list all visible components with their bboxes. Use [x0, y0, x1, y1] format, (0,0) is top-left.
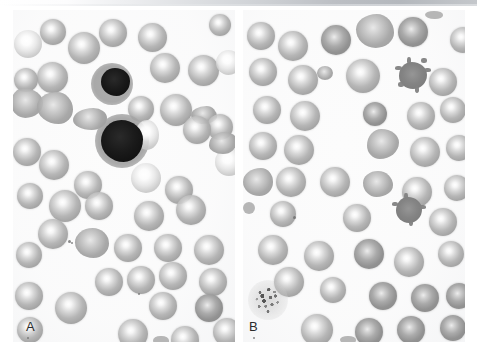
red-blood-cell [253, 96, 281, 124]
red-blood-cell [407, 102, 435, 130]
red-blood-cell [40, 19, 66, 45]
red-blood-cell [438, 241, 464, 267]
panel-a [13, 10, 235, 342]
stain-artifact [27, 337, 29, 339]
red-blood-cell [354, 239, 384, 269]
teardrop-red-cell [363, 171, 393, 197]
red-blood-cell [150, 53, 180, 83]
red-blood-cell [346, 59, 380, 93]
red-blood-cell [249, 58, 277, 86]
echinocyte-spicule [409, 220, 413, 226]
red-blood-cell [321, 25, 351, 55]
echinocyte-spicule [395, 66, 402, 70]
red-blood-cell [369, 282, 397, 310]
stain-artifact [253, 337, 255, 339]
red-blood-cell [398, 17, 428, 47]
red-blood-cell [39, 150, 69, 180]
red-blood-cell [284, 135, 314, 165]
red-blood-cell [213, 318, 235, 342]
stain-artifact [71, 242, 73, 244]
red-blood-cell [38, 219, 68, 249]
red-blood-cell [154, 234, 182, 262]
red-blood-cell [55, 292, 87, 324]
echinocyte-spicule [415, 86, 419, 93]
red-blood-cell [14, 30, 42, 58]
echinocyte-spicule [392, 202, 398, 206]
red-blood-cell [159, 262, 187, 290]
red-blood-cell [410, 137, 440, 167]
red-blood-cell [99, 19, 127, 47]
irregular-red-cell [356, 14, 394, 48]
red-blood-cell [49, 190, 81, 222]
red-blood-cell [320, 167, 350, 197]
red-blood-cell [118, 319, 148, 342]
echinocyte-spicule [424, 68, 431, 72]
red-blood-cell [37, 62, 68, 93]
red-blood-cell [278, 31, 308, 61]
red-blood-cell [13, 138, 41, 166]
red-blood-cell [247, 22, 275, 50]
red-blood-cell [134, 201, 164, 231]
red-blood-cell [95, 268, 123, 296]
echinocyte-spicule [419, 205, 426, 209]
red-blood-cell [171, 326, 199, 342]
fragmented-red-cell [209, 132, 235, 154]
scanner-gray-band [0, 0, 477, 6]
cell-fragment [340, 336, 356, 342]
red-blood-cell [301, 314, 333, 342]
red-blood-cell [138, 23, 167, 52]
red-blood-cell [288, 65, 318, 95]
cell-fragment [243, 202, 255, 214]
panel-a-label: A [26, 320, 35, 333]
red-blood-cell [16, 242, 42, 268]
red-blood-cell [199, 268, 227, 296]
small-cell-fragment [317, 66, 333, 80]
red-blood-cell [355, 318, 383, 342]
red-blood-cell [363, 102, 387, 126]
red-blood-cell [188, 55, 219, 86]
red-blood-cell [290, 101, 320, 131]
red-blood-cell [258, 235, 288, 265]
crenated-red-cell [37, 92, 73, 124]
panel-b-label: B [249, 320, 258, 333]
red-blood-cell [446, 283, 465, 309]
red-blood-cell [176, 195, 206, 225]
red-blood-cell [450, 27, 465, 53]
echinocyte-spicule [421, 58, 427, 63]
red-blood-cell [394, 247, 424, 277]
irregular-red-cell [243, 168, 273, 196]
red-blood-cell [411, 284, 439, 312]
red-blood-cell [68, 32, 100, 64]
red-blood-cell [446, 135, 465, 161]
red-blood-cell [429, 208, 457, 236]
red-blood-cell [149, 292, 177, 320]
red-blood-cell [209, 14, 231, 36]
stain-artifact [138, 293, 140, 295]
red-blood-cell [17, 183, 43, 209]
red-blood-cell [194, 235, 224, 265]
cell-fragment [425, 11, 443, 19]
nucleated-red-cell-nucleus [101, 68, 130, 96]
red-blood-cell [440, 97, 465, 123]
crenated-red-cell [75, 228, 109, 258]
irregular-red-cell [367, 129, 399, 159]
red-blood-cell [276, 167, 306, 197]
red-blood-cell [85, 192, 113, 220]
red-blood-cell [131, 163, 161, 193]
cell-fragment [153, 336, 169, 342]
echinocyte-spiculated-cell [396, 197, 422, 223]
red-blood-cell [440, 315, 465, 341]
echinocyte-spicule [404, 193, 408, 199]
red-blood-cell [249, 132, 277, 160]
red-blood-cell [15, 282, 43, 310]
red-blood-cell [320, 277, 346, 303]
echinocyte-spicule [407, 57, 411, 64]
red-blood-cell [216, 50, 235, 75]
echinocyte-spicule [398, 82, 404, 87]
red-blood-cell [270, 201, 296, 227]
red-blood-cell [429, 68, 457, 96]
red-blood-cell [183, 116, 211, 144]
scanner-band-line [0, 4, 477, 6]
red-blood-cell [343, 204, 371, 232]
red-blood-cell [127, 266, 155, 294]
